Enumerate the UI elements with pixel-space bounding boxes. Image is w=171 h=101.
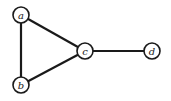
node-b: b (13, 77, 29, 93)
graph-diagram: a b c d (0, 0, 171, 101)
node-d: d (144, 43, 160, 59)
node-c: c (77, 43, 93, 59)
edge-a-c (21, 15, 85, 51)
node-c-label: c (82, 46, 88, 57)
node-b-label: b (18, 80, 24, 91)
node-a-label: a (18, 10, 24, 21)
node-d-label: d (149, 46, 155, 57)
node-a: a (13, 7, 29, 23)
edge-b-c (21, 51, 85, 85)
